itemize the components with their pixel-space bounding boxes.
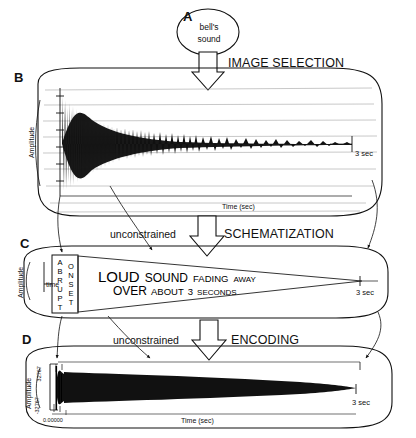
schema-word: ABOUT	[151, 286, 184, 297]
arrow-b-onset-to-c	[58, 196, 62, 252]
onset-letter: N	[66, 271, 76, 280]
panel-b-duration-label: 3 sec	[355, 150, 373, 158]
figure-root: A B C D bell's sound IMAGE SELECTION unc…	[0, 0, 416, 438]
schema-line-1: LOUD SOUND FADING AWAY	[98, 268, 256, 285]
stage-label-encoding: ENCODING	[231, 334, 299, 347]
schematization-arrow	[190, 216, 224, 256]
schema-word: SECONDS	[197, 288, 237, 297]
abrupt-word-column: A B R U P T	[55, 258, 66, 312]
panel-d-x-origin-tick: 0.00000	[43, 418, 63, 424]
panel-b-x-axis-label: Time (sec)	[222, 203, 255, 210]
schema-word: AWAY	[233, 275, 255, 284]
abrupt-letter: U	[55, 285, 65, 294]
schema-word: LOUD	[98, 268, 140, 285]
panel-d-duration-label: 3 sec	[352, 399, 370, 407]
panel-d-x-axis-label: Time (sec)	[181, 417, 214, 424]
panel-b-waveform	[62, 96, 352, 191]
stage-label-schematization: SCHEMATIZATION	[224, 228, 334, 241]
schema-word: OVER	[113, 284, 147, 298]
arrow-c-onset-to-d	[57, 316, 62, 358]
onset-letter: O	[66, 262, 76, 271]
abrupt-letter: A	[55, 258, 65, 267]
schema-word: FADING	[193, 273, 228, 284]
qualifier-encoding: unconstrained	[113, 335, 179, 346]
abrupt-letter: T	[55, 303, 65, 312]
abrupt-letter: R	[55, 276, 65, 285]
panel-letter-a: A	[183, 10, 193, 23]
panel-d-y-min-tick: -32767	[35, 397, 41, 414]
figure-graphics	[0, 0, 416, 438]
panel-b-y-axis-label: Amplitude	[28, 127, 35, 158]
panel-d-y-max-tick: 32767	[37, 366, 43, 381]
abrupt-letter: P	[55, 294, 65, 303]
panel-letter-c: C	[20, 237, 30, 250]
onset-letter: T	[66, 298, 76, 307]
panel-c-y-axis-label: Amplitude	[17, 267, 24, 298]
arrow-b-tail-to-c	[368, 180, 377, 248]
panel-d-waveform	[56, 366, 357, 410]
schema-word: SOUND	[145, 271, 188, 285]
arrow-b-body-to-c	[110, 186, 152, 250]
bells-sound-line1: bell's	[191, 23, 227, 32]
stage-label-image-selection: IMAGE SELECTION	[228, 57, 344, 70]
image-selection-arrow	[192, 52, 224, 90]
qualifier-schematization: unconstrained	[110, 229, 176, 240]
onset-word-column: O N S E T	[66, 262, 77, 307]
encoding-arrow	[192, 320, 226, 360]
panel-letter-d: D	[22, 333, 32, 346]
abrupt-letter: B	[55, 267, 65, 276]
schema-word: 3	[188, 286, 193, 297]
schema-line-2: OVER ABOUT 3 SECONDS	[113, 284, 237, 298]
panel-d-y-axis-label: Amplitude	[25, 378, 32, 409]
panel-letter-b: B	[14, 71, 24, 84]
onset-letter: S	[66, 280, 76, 289]
panel-c-duration-label: 3 sec	[356, 289, 374, 297]
bells-sound-line2: sound	[191, 35, 227, 44]
onset-letter: E	[66, 289, 76, 298]
